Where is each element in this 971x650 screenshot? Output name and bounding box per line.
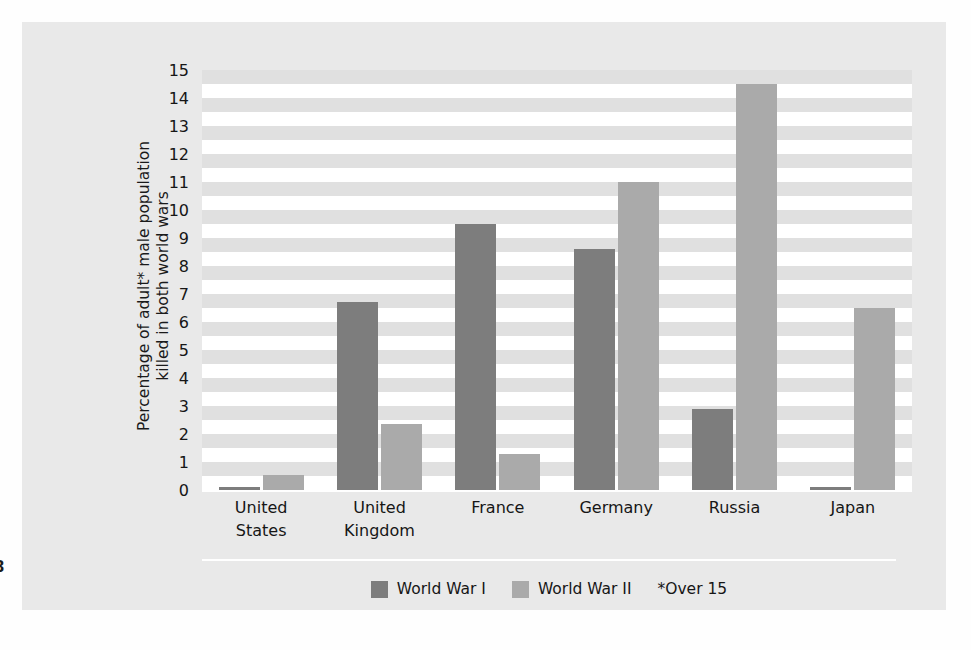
y-axis-tick-label: 14 [169,89,189,108]
bar-russia-ww2[interactable] [736,84,777,490]
y-axis-tick-label: 10 [169,201,189,220]
bar-france-ww2[interactable] [499,454,540,490]
grid-band [202,266,912,280]
legend-item-world-war-ii[interactable]: World War II [512,580,632,598]
grid-band [202,182,912,196]
y-axis-tick-label: 8 [179,257,189,276]
y-axis-title-line-1: Percentage of adult* male population [135,141,154,431]
page-number: 8 [0,554,12,580]
bar-germany-ww1[interactable] [574,249,615,490]
legend-swatch-icon-ww1 [371,581,388,598]
y-axis-tick-label: 5 [179,341,189,360]
grid-band [202,126,912,140]
grid-band [202,434,912,448]
legend-footnote: *Over 15 [658,580,728,598]
plot-area: 0123456789101112131415 [202,70,912,490]
bar-france-ww1[interactable] [455,224,496,490]
y-axis-tick-label: 4 [179,369,189,388]
y-axis-tick-label: 12 [169,145,189,164]
y-axis-tick-label: 9 [179,229,189,248]
x-axis-tick-label-united-states: UnitedStates [235,496,288,542]
grid-band [202,378,912,392]
y-axis-tick-label: 15 [169,61,189,80]
y-axis-tick-label: 0 [179,481,189,500]
chart-legend: World War I World War II *Over 15 [202,574,896,604]
x-axis-tick-label-russia: Russia [709,496,760,519]
bar-united-kingdom-ww1[interactable] [337,302,378,490]
bar-united-states-ww2[interactable] [263,475,304,490]
y-axis-tick-label: 2 [179,425,189,444]
x-axis-tick-label-germany: Germany [579,496,653,519]
grid-band [202,350,912,364]
y-axis-tick-label: 6 [179,313,189,332]
y-axis-tick-label: 7 [179,285,189,304]
x-axis-labels: UnitedStatesUnitedKingdomFranceGermanyRu… [202,496,912,548]
y-axis-tick-label: 3 [179,397,189,416]
x-axis-baseline [202,490,912,492]
legend-item-world-war-i[interactable]: World War I [371,580,486,598]
chart-panel: Percentage of adult* male population kil… [22,22,946,610]
grid-band [202,322,912,336]
bar-germany-ww2[interactable] [618,182,659,490]
y-axis-title: Percentage of adult* male population kil… [132,76,176,496]
figure-page: Percentage of adult* male population kil… [0,0,971,650]
bar-japan-ww2[interactable] [854,308,895,490]
x-axis-tick-label-united-kingdom: UnitedKingdom [344,496,415,542]
y-axis-tick-label: 13 [169,117,189,136]
legend-label-ww2: World War II [538,580,632,598]
grid-band [202,154,912,168]
grid-band [202,238,912,252]
x-axis-tick-label-japan: Japan [831,496,876,519]
y-axis-tick-label: 11 [169,173,189,192]
y-axis-tick-label: 1 [179,453,189,472]
bar-united-kingdom-ww2[interactable] [381,424,422,490]
x-axis-tick-label-france: France [471,496,524,519]
grid-band [202,210,912,224]
legend-label-ww1: World War I [397,580,486,598]
bar-russia-ww1[interactable] [692,409,733,490]
grid-band [202,294,912,308]
grid-band [202,406,912,420]
legend-divider [202,559,896,561]
grid-band [202,462,912,476]
legend-swatch-icon-ww2 [512,581,529,598]
grid-band [202,98,912,112]
grid-band [202,70,912,84]
